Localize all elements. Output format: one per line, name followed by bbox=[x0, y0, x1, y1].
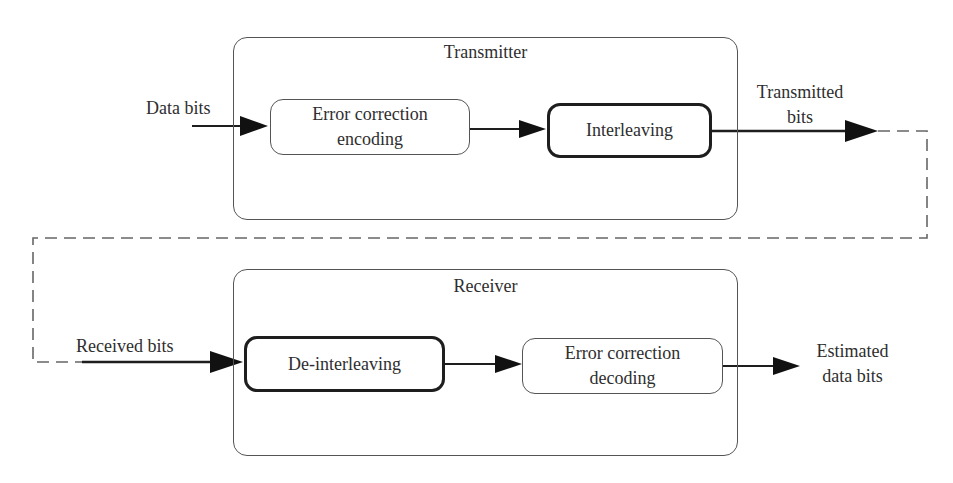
decoding-line2: decoding bbox=[565, 366, 680, 391]
data-bits-label: Data bits bbox=[146, 96, 211, 121]
transmitter-title: Transmitter bbox=[234, 42, 737, 63]
decoding-line1: Error correction bbox=[565, 341, 680, 366]
receiver-title: Receiver bbox=[234, 276, 737, 297]
transmitted-bits-label: Transmitted bits bbox=[740, 80, 860, 130]
error-correction-encoding-block: Error correction encoding bbox=[270, 99, 470, 155]
de-interleaving-label: De-interleaving bbox=[288, 352, 401, 377]
interleaving-label: Interleaving bbox=[586, 118, 673, 143]
de-interleaving-block: De-interleaving bbox=[244, 336, 445, 392]
transmitted-bits-line1: Transmitted bbox=[740, 80, 860, 105]
encoding-line2: encoding bbox=[312, 127, 427, 152]
received-bits-label: Received bits bbox=[76, 334, 173, 359]
estimated-line2: data bits bbox=[795, 364, 910, 389]
transmitted-bits-line2: bits bbox=[740, 105, 860, 130]
error-correction-decoding-block: Error correction decoding bbox=[522, 338, 723, 394]
encoding-line1: Error correction bbox=[312, 102, 427, 127]
estimated-data-bits-label: Estimated data bits bbox=[795, 339, 910, 389]
estimated-line1: Estimated bbox=[795, 339, 910, 364]
interleaving-block: Interleaving bbox=[547, 103, 712, 158]
